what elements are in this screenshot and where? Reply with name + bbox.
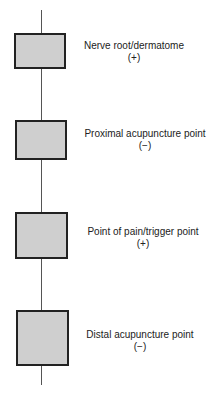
node-label: Nerve root/dermatome (+): [76, 40, 192, 64]
node-box: [15, 212, 68, 259]
node-label: Point of pain/trigger point (+): [76, 226, 210, 250]
node-box: [14, 33, 66, 69]
node-sign: (+): [76, 52, 192, 64]
node-label: Distal acupuncture point (−): [76, 329, 204, 353]
node-sign: (−): [75, 140, 215, 152]
node-sign: (+): [76, 238, 210, 250]
node-label: Proximal acupuncture point (−): [75, 128, 215, 152]
node-box: [15, 120, 67, 160]
node-box: [16, 310, 69, 366]
node-sign: (−): [76, 341, 204, 353]
